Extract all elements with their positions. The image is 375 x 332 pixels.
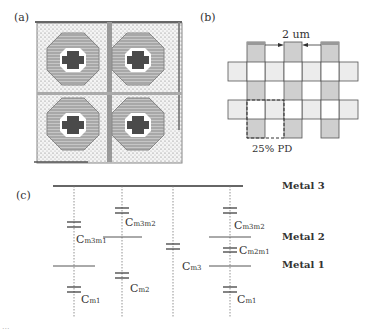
metal-2-label: Metal 2 [282,231,325,242]
cap-label-m2m1: Cm2m1 [239,244,270,257]
cap-label-m3m1: Cm3m1 [76,233,107,246]
cropped-caption: ... [2,322,10,331]
cap-label-m3: Cm3 [182,260,202,273]
cap-label-m2: Cm2 [130,282,150,295]
cap-label-m1-right: Cm1 [237,293,257,306]
cap-label-m1-left: Cm1 [81,293,101,306]
metal-3-label: Metal 3 [282,180,325,191]
cap-label-m3m2-left: Cm3m2 [125,216,156,229]
metal-1-label: Metal 1 [282,259,325,270]
cap-label-m3m2-right: Cm3m2 [234,219,265,232]
panel-c-circuit [0,0,375,332]
